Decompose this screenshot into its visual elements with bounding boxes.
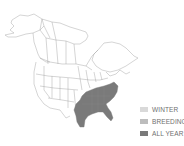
map-legend: WINTER BREEDING ALL YEAR xyxy=(140,104,184,140)
legend-item-all-year: ALL YEAR xyxy=(140,128,184,139)
winter-swatch xyxy=(140,107,148,112)
all-year-swatch xyxy=(140,131,148,136)
legend-item-breeding: BREEDING xyxy=(140,116,184,127)
all-year-range-area xyxy=(74,82,118,127)
breeding-swatch xyxy=(140,119,148,124)
legend-label: WINTER xyxy=(152,104,178,115)
north-america-outline xyxy=(5,14,138,118)
legend-label: ALL YEAR xyxy=(152,128,184,139)
legend-item-winter: WINTER xyxy=(140,104,184,115)
legend-label: BREEDING xyxy=(152,116,184,127)
